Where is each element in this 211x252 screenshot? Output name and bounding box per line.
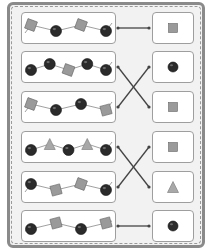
square-bead-icon: [169, 143, 178, 152]
ball-bead-icon: [26, 65, 37, 76]
triangle-bead-icon: [82, 139, 93, 150]
string-line: [25, 102, 112, 112]
line-endpoint-dot: [116, 145, 119, 148]
triangle-bead-icon: [168, 182, 179, 193]
square-bead-icon: [75, 178, 88, 191]
ball-bead-icon: [101, 65, 112, 76]
string-line: [25, 23, 112, 33]
worksheet-art: [0, 0, 211, 252]
string-line: [25, 221, 112, 231]
square-bead-icon: [25, 98, 38, 111]
line-endpoint-dot: [147, 105, 150, 108]
ball-bead-icon: [44, 59, 55, 70]
square-bead-icon: [25, 19, 38, 32]
ball-bead-icon: [76, 99, 87, 110]
line-endpoint-dot: [147, 26, 150, 29]
line-endpoint-dot: [116, 224, 119, 227]
line-endpoint-dot: [116, 26, 119, 29]
line-endpoint-dot: [116, 105, 119, 108]
square-bead-icon: [50, 184, 62, 196]
line-endpoint-dot: [147, 224, 150, 227]
line-endpoint-dot: [147, 145, 150, 148]
line-endpoint-dot: [116, 65, 119, 68]
square-bead-icon: [62, 64, 75, 77]
ball-bead-icon: [51, 105, 62, 116]
ball-bead-icon: [101, 145, 112, 156]
ball-bead-icon: [63, 145, 74, 156]
square-bead-icon: [169, 103, 178, 112]
ball-bead-icon: [26, 224, 37, 235]
ball-bead-icon: [168, 62, 178, 72]
square-bead-icon: [50, 217, 62, 229]
ball-bead-icon: [76, 224, 87, 235]
line-endpoint-dot: [147, 185, 150, 188]
line-endpoint-dot: [147, 65, 150, 68]
line-endpoint-dot: [116, 185, 119, 188]
triangle-bead-icon: [44, 139, 55, 150]
ball-bead-icon: [101, 185, 112, 196]
square-bead-icon: [100, 217, 112, 229]
square-bead-icon: [75, 19, 88, 32]
square-bead-icon: [100, 104, 112, 116]
string-line: [25, 182, 112, 192]
ball-bead-icon: [168, 221, 178, 231]
ball-bead-icon: [51, 26, 62, 37]
ball-bead-icon: [82, 59, 93, 70]
ball-bead-icon: [26, 179, 37, 190]
ball-bead-icon: [101, 26, 112, 37]
ball-bead-icon: [26, 145, 37, 156]
square-bead-icon: [169, 24, 178, 33]
